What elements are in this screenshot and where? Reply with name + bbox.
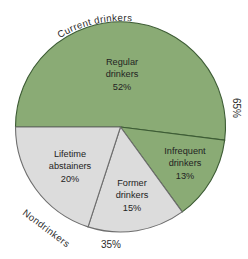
slice-label-former-drinkers-line1: Former (117, 178, 147, 188)
group-value-nondrinkers: 35% (101, 239, 121, 250)
slice-label-regular-drinkers-line2: drinkers (106, 69, 139, 79)
slice-label-infrequent-drinkers-line2: drinkers (169, 158, 202, 168)
slice-value-lifetime-abstainers: 20% (61, 174, 79, 184)
slice-value-regular-drinkers: 52% (113, 82, 131, 92)
slice-value-infrequent-drinkers: 13% (176, 171, 194, 181)
slice-label-lifetime-abstainers-line2: abstainers (49, 161, 92, 171)
slice-label-lifetime-abstainers-line1: Lifetime (54, 149, 86, 159)
group-value-current-drinkers: 65% (231, 98, 242, 118)
pie-chart: Regular drinkers 52% Infrequent drinkers… (0, 0, 248, 259)
slice-label-regular-drinkers-line1: Regular (106, 57, 138, 67)
pie-chart-svg: Regular drinkers 52% Infrequent drinkers… (0, 0, 248, 259)
slice-label-infrequent-drinkers-line1: Infrequent (164, 146, 206, 156)
slice-value-former-drinkers: 15% (123, 203, 141, 213)
pie-slice-regular-drinkers[interactable] (15, 22, 225, 140)
slice-label-former-drinkers-line2: drinkers (116, 190, 149, 200)
